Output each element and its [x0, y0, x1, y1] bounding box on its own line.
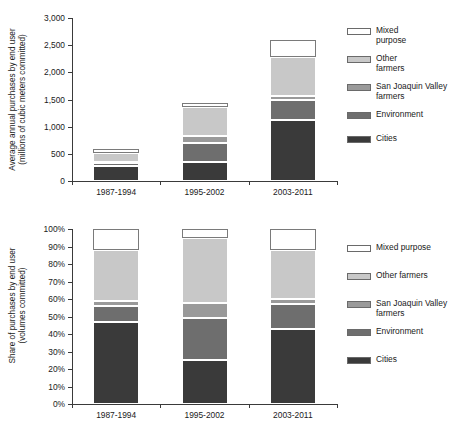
legend-item[interactable]: Cities [347, 134, 397, 144]
x-tick [249, 181, 250, 185]
y-tick [68, 127, 72, 128]
x-tick [337, 404, 338, 408]
legend-item[interactable]: Mixed purpose [347, 243, 431, 253]
x-axis-line-bottom [72, 404, 338, 405]
bar-segment-cities[interactable] [182, 162, 228, 181]
y-tick-label: 80% [25, 259, 65, 269]
y-tick-label: 20% [25, 364, 65, 374]
legend-swatch-icon [347, 56, 371, 63]
bar-segment-cities[interactable] [270, 120, 316, 181]
bar-segment-mixed-purpose[interactable] [182, 229, 228, 238]
bar-segment-other-farmers[interactable] [270, 57, 316, 96]
legend-swatch-icon [347, 329, 371, 336]
y-tick [68, 229, 72, 230]
bar-segment-environment[interactable] [182, 318, 228, 360]
stacked-bar[interactable] [93, 149, 139, 181]
x-axis-line-top [72, 181, 338, 182]
y-tick-label: 0 [25, 176, 65, 186]
legend-label: Other farmers [376, 54, 404, 74]
bar-segment-mixed-purpose[interactable] [270, 40, 316, 57]
stacked-bar[interactable] [182, 103, 228, 181]
y-axis-line-top [72, 18, 73, 182]
bar-segment-other-farmers[interactable] [182, 107, 228, 136]
bar-segment-environment[interactable] [93, 306, 139, 322]
legend-item[interactable]: Other farmers [347, 54, 404, 74]
bar-segment-other-farmers[interactable] [182, 238, 228, 303]
bar-segment-san-joaquin-valley-farmers[interactable] [182, 136, 228, 143]
y-tick [68, 45, 72, 46]
y-tick [68, 100, 72, 101]
legend-swatch-icon [347, 84, 371, 91]
bar-segment-environment[interactable] [270, 100, 316, 120]
bar-segment-san-joaquin-valley-farmers[interactable] [93, 301, 139, 306]
legend-label: Mixed purpose [376, 26, 406, 46]
y-tick-label: 0% [25, 399, 65, 409]
x-tick-label: 2003-2011 [273, 187, 312, 197]
legend-label: Environment [376, 110, 423, 120]
bar-segment-san-joaquin-valley-farmers[interactable] [182, 303, 228, 319]
legend-item[interactable]: San Joaquin Valley farmers [347, 82, 447, 102]
bar-segment-cities[interactable] [93, 322, 139, 404]
legend-swatch-icon [347, 136, 371, 143]
y-axis-line-bottom [72, 229, 73, 405]
stacked-bar[interactable] [270, 229, 316, 404]
y-tick-label: 3,000 [25, 13, 65, 23]
legend-top: Mixed purposeOther farmersSan Joaquin Va… [347, 26, 458, 166]
y-tick-label: 2,500 [25, 40, 65, 50]
y-tick [68, 72, 72, 73]
y-tick [68, 154, 72, 155]
y-tick-label: 30% [25, 347, 65, 357]
bar-segment-environment[interactable] [182, 143, 228, 162]
bar-segment-environment[interactable] [93, 163, 139, 166]
bar-segment-san-joaquin-valley-farmers[interactable] [270, 299, 316, 304]
bar-segment-mixed-purpose[interactable] [182, 103, 228, 107]
legend-item[interactable]: Environment [347, 110, 423, 120]
bar-segment-environment[interactable] [270, 304, 316, 329]
x-tick-label: 1987-1994 [96, 410, 136, 420]
y-tick [68, 18, 72, 19]
x-tick-label: 1987-1994 [96, 187, 136, 197]
bar-segment-mixed-purpose[interactable] [270, 229, 316, 250]
y-tick [68, 387, 72, 388]
x-tick-label: 1995-2002 [184, 410, 224, 420]
bar-segment-other-farmers[interactable] [93, 153, 139, 162]
legend-item[interactable]: Mixed purpose [347, 26, 406, 46]
x-tick [160, 404, 161, 408]
chart-panel-share: Share of purchases by end user (volumes … [0, 213, 458, 427]
x-tick [249, 404, 250, 408]
legend-item[interactable]: Environment [347, 327, 423, 337]
legend-item[interactable]: San Joaquin Valley farmers [347, 299, 447, 319]
bar-segment-cities[interactable] [93, 166, 139, 181]
y-tick-label: 90% [25, 242, 65, 252]
bar-segment-other-farmers[interactable] [93, 250, 139, 301]
bar-segment-mixed-purpose[interactable] [93, 149, 139, 153]
legend-swatch-icon [347, 112, 371, 119]
legend-swatch-icon [347, 357, 371, 364]
y-tick [68, 369, 72, 370]
legend-item[interactable]: Cities [347, 355, 397, 365]
y-tick-label: 1,000 [25, 122, 65, 132]
legend-swatch-icon [347, 301, 371, 308]
bar-segment-other-farmers[interactable] [270, 250, 316, 299]
stacked-bar[interactable] [93, 229, 139, 404]
bar-segment-san-joaquin-valley-farmers[interactable] [270, 96, 316, 100]
y-tick [68, 247, 72, 248]
stacked-bar[interactable] [270, 40, 316, 181]
y-tick [68, 282, 72, 283]
y-tick-label: 1,500 [25, 95, 65, 105]
y-tick-label: 2,000 [25, 67, 65, 77]
legend-label: Cities [376, 134, 397, 144]
legend-item[interactable]: Other farmers [347, 271, 428, 281]
y-tick [68, 352, 72, 353]
bar-segment-mixed-purpose[interactable] [93, 229, 139, 250]
x-tick [337, 181, 338, 185]
plot-area-bottom: 0%10%20%30%40%50%60%70%80%90%100% 1987-1… [72, 229, 337, 404]
stacked-bar[interactable] [182, 229, 228, 404]
legend-label: San Joaquin Valley farmers [376, 82, 447, 102]
legend-label: San Joaquin Valley farmers [376, 299, 447, 319]
y-tick [68, 299, 72, 300]
x-tick-label: 2003-2011 [273, 410, 312, 420]
legend-swatch-icon [347, 28, 371, 35]
bar-segment-cities[interactable] [182, 360, 228, 404]
bar-segment-cities[interactable] [270, 329, 316, 404]
